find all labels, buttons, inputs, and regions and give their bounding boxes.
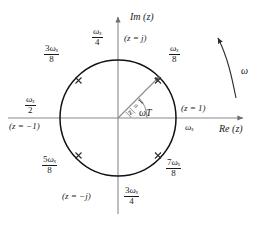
z-plane-unit-circle-figure: Im (z) Re (z) ωs 4 (z = j) 3ωs 8 ωs 8 ωs… [0, 0, 273, 226]
rotation-direction-label-omega: ω [241, 66, 248, 76]
marker-label-five-omega-s-over-8: 5ωs 8 [42, 155, 57, 175]
marker-label-three-omega-s-over-8: 3ωs 8 [44, 44, 59, 64]
marker-label-omega-s-over-2: ωs 2 [25, 95, 36, 115]
marker-label-omega-s-over-4: ωs 4 [92, 27, 103, 47]
marker-label-seven-omega-s-over-8: 7ωs 8 [166, 158, 181, 178]
rotation-arrow [218, 38, 236, 98]
point-label-z-equals-1: (z = 1) [181, 104, 206, 113]
imaginary-axis-label: Im (z) [130, 12, 154, 22]
angle-label-omega-t: ωT [139, 108, 152, 118]
point-label-z-equals-j: (z = j) [124, 34, 147, 43]
point-label-z-equals-minus-1: (z = −1) [9, 122, 40, 131]
marker-label-omega-s-over-8: ωs 8 [169, 44, 180, 64]
marker-label-three-omega-s-over-4: 3ωs 4 [124, 186, 139, 206]
real-axis-label: Re (z) [219, 124, 243, 134]
point-label-z-equals-minus-j: (z = −j) [62, 192, 91, 201]
marker-label-omega-s: ωs [185, 123, 194, 133]
